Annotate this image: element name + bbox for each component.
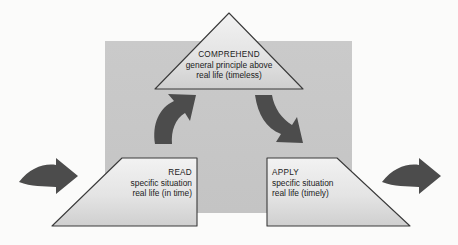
diagram-graphics [0, 0, 458, 245]
diagram-canvas: COMPREHEND general principle above real … [0, 0, 458, 245]
inbound-arrow [19, 158, 78, 194]
outbound-arrow [382, 158, 441, 194]
read-shape [52, 158, 197, 226]
apply-shape [267, 158, 410, 226]
